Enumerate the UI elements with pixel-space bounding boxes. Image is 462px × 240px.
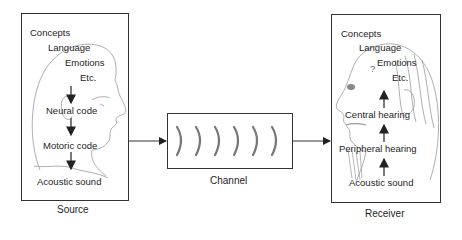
source-caption: Source — [57, 204, 89, 215]
channel-box — [167, 113, 293, 169]
source-label-etc: Etc. — [80, 73, 96, 83]
source-label-acoustic-sound: Acoustic sound — [37, 177, 101, 187]
receiver-label-concepts: Concepts — [341, 29, 381, 39]
receiver-label-etc: Etc. — [392, 73, 408, 83]
receiver-question-mark: ? — [370, 64, 375, 74]
receiver-label-central-hearing: Central hearing — [345, 110, 410, 120]
receiver-label-language: Language — [359, 43, 401, 53]
source-label-language: Language — [48, 43, 90, 53]
receiver-caption: Receiver — [365, 208, 404, 219]
source-label-motoric-code: Motoric code — [43, 141, 97, 151]
channel-caption: Channel — [210, 175, 247, 186]
source-label-concepts: Concepts — [30, 28, 70, 38]
source-label-emotions: Emotions — [65, 58, 105, 68]
source-label-neural-code: Neural code — [46, 106, 97, 116]
receiver-label-emotions: Emotions — [377, 58, 417, 68]
receiver-label-acoustic-sound: Acoustic sound — [349, 178, 413, 188]
receiver-label-peripheral-hearing: Peripheral hearing — [339, 144, 417, 154]
